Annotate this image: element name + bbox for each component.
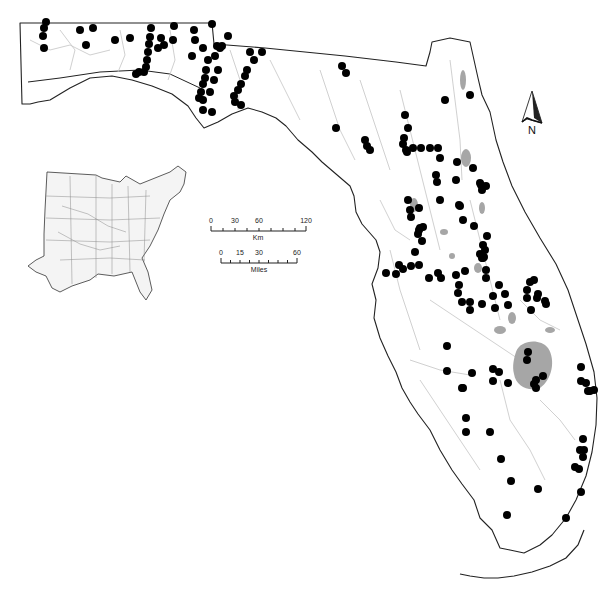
site-point <box>241 72 249 80</box>
site-point <box>478 186 486 194</box>
site-point <box>470 222 478 230</box>
scale-bar: 0 30 60 120 Km 0 15 30 60 Miles <box>209 217 312 273</box>
site-point <box>418 237 426 245</box>
site-point <box>489 365 497 373</box>
site-point <box>202 66 210 74</box>
site-point <box>407 213 415 221</box>
site-point <box>132 70 140 78</box>
site-point <box>126 34 134 42</box>
site-point <box>414 230 422 238</box>
site-point <box>250 56 258 64</box>
site-point <box>483 232 491 240</box>
site-point <box>206 88 214 96</box>
site-point <box>144 48 152 56</box>
florida-site-map: 0 30 60 120 Km 0 15 30 60 Miles <box>0 0 612 593</box>
site-point <box>111 36 119 44</box>
site-point <box>462 414 470 422</box>
north-label: N <box>528 124 536 136</box>
site-point <box>579 453 587 461</box>
site-point <box>486 428 494 436</box>
site-point <box>579 435 587 443</box>
site-point <box>489 292 497 300</box>
site-point <box>480 253 488 261</box>
site-point <box>39 32 47 40</box>
site-point <box>401 111 409 119</box>
site-point <box>590 386 598 394</box>
site-point <box>76 26 84 34</box>
scale-mi-tick-0: 0 <box>219 249 223 256</box>
scale-mi-unit: Miles <box>251 266 268 273</box>
site-point <box>89 24 97 32</box>
site-point <box>571 463 579 471</box>
site-point <box>530 276 538 284</box>
scale-mi-tick-1: 15 <box>236 249 244 256</box>
site-point <box>188 52 196 60</box>
scale-km-tick-0: 0 <box>209 217 213 224</box>
site-point <box>246 48 254 56</box>
site-point <box>452 271 460 279</box>
site-point <box>208 20 216 28</box>
site-point <box>441 96 449 104</box>
site-point <box>40 24 48 32</box>
scale-km-unit: Km <box>253 234 264 241</box>
site-point <box>577 363 585 371</box>
site-point <box>453 158 461 166</box>
site-point <box>82 41 90 49</box>
site-point <box>157 34 165 42</box>
site-point <box>458 298 466 306</box>
scale-bar-miles: 0 15 30 60 Miles <box>219 249 301 273</box>
site-point <box>214 66 222 74</box>
site-point <box>454 289 462 297</box>
site-point <box>224 32 232 40</box>
site-point <box>411 248 419 256</box>
site-point <box>489 377 497 385</box>
site-point <box>436 196 444 204</box>
site-point <box>466 306 474 314</box>
site-point <box>407 262 415 270</box>
site-point <box>382 269 390 277</box>
site-point <box>199 44 207 52</box>
site-point <box>527 306 535 314</box>
site-point <box>404 196 412 204</box>
site-point <box>415 261 423 269</box>
site-point <box>507 477 515 485</box>
site-point <box>541 297 549 305</box>
site-point <box>211 52 219 60</box>
site-point <box>415 204 423 212</box>
site-point <box>433 178 441 186</box>
site-point <box>146 33 154 41</box>
site-point <box>404 124 412 132</box>
site-point <box>462 428 470 436</box>
site-point <box>443 367 451 375</box>
site-point <box>533 294 541 302</box>
site-point <box>478 300 486 308</box>
scale-mi-tick-3: 60 <box>293 249 301 256</box>
site-point <box>190 26 198 34</box>
site-point <box>495 281 503 289</box>
site-point <box>436 154 444 162</box>
site-point <box>145 40 153 48</box>
site-point <box>459 216 467 224</box>
site-point <box>523 286 531 294</box>
site-point <box>469 164 477 172</box>
site-point <box>580 446 588 454</box>
site-point <box>191 36 199 44</box>
site-point <box>342 69 350 77</box>
site-point <box>199 106 207 114</box>
site-point <box>218 42 226 50</box>
site-point <box>160 41 168 49</box>
site-point <box>562 514 570 522</box>
site-point <box>504 301 512 309</box>
site-point <box>417 144 425 152</box>
site-point <box>434 269 442 277</box>
site-point <box>425 274 433 282</box>
site-point <box>524 348 532 356</box>
site-point <box>338 62 346 70</box>
site-point <box>210 76 218 84</box>
site-point <box>143 56 151 64</box>
site-point <box>530 380 538 388</box>
site-point <box>534 485 542 493</box>
site-point <box>40 44 48 52</box>
site-point <box>539 372 547 380</box>
scale-km-tick-3: 120 <box>300 217 312 224</box>
